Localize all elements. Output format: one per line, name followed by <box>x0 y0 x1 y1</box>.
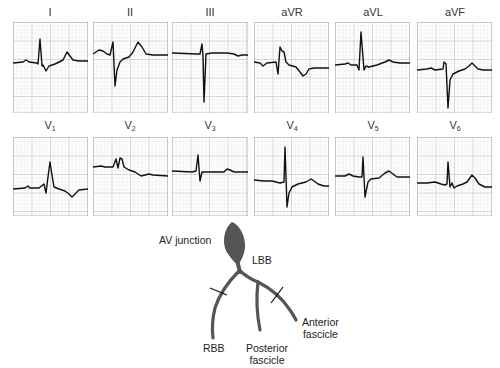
posterior-fascicle-line2: fascicle <box>246 354 288 366</box>
posterior-fascicle <box>257 282 260 330</box>
conduction-system-diagram <box>0 0 500 368</box>
posterior-fascicle-label: Posterior fascicle <box>246 342 288 366</box>
anterior-fascicle-line2: fascicle <box>302 328 339 340</box>
anterior-fascicle-line1: Anterior <box>302 316 339 328</box>
av-junction-label: AV junction <box>159 234 211 246</box>
lbb-label: LBB <box>252 254 272 266</box>
anterior-fascicle <box>258 282 296 320</box>
rbb-branch <box>212 271 239 338</box>
anterior-fascicle-label: Anterior fascicle <box>302 316 339 340</box>
posterior-fascicle-line1: Posterior <box>246 342 288 354</box>
av-junction-shape <box>224 222 245 266</box>
rbb-label: RBB <box>203 342 225 354</box>
lbb-branch <box>240 271 258 282</box>
